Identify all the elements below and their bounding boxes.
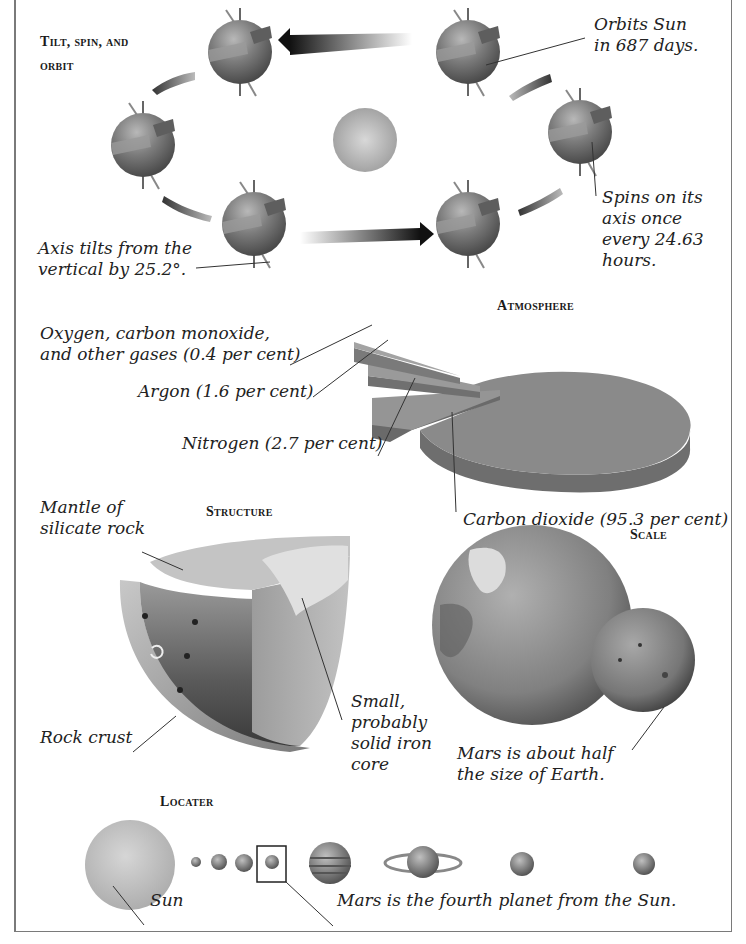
sun-icon [333, 108, 397, 172]
venus-icon [211, 854, 227, 870]
earth-icon [235, 854, 253, 872]
earth-icon [432, 525, 632, 725]
mars-icon [265, 855, 279, 869]
planet-icon [436, 8, 500, 96]
spin-label-line: hours. [602, 250, 704, 271]
mantle-label-line: Mantle of [40, 497, 145, 518]
tilt-label-line: Axis tilts from the [38, 238, 192, 259]
planet-icon [548, 88, 612, 176]
neptune-icon [633, 853, 655, 875]
planet-icon [111, 101, 175, 189]
scale-label-line: the size of Earth. [457, 764, 614, 785]
atmosphere-pie-chart [0, 280, 746, 500]
tilt-label-line: vertical by 25.2°. [38, 259, 192, 280]
scale-label-line: Mars is about half [457, 743, 614, 764]
oxygen-label-line: and other gases (0.4 per cent) [40, 344, 300, 365]
orbit-label-line: Orbits Sun [594, 14, 698, 35]
orbit-label-line: in 687 days. [594, 35, 698, 56]
saturn-icon [385, 846, 461, 878]
planet-icon [222, 180, 286, 268]
locater-mars-label: Mars is the fourth planet from the Sun. [337, 890, 676, 911]
structure-heading: Structure [206, 504, 273, 520]
scale-comparison [0, 520, 746, 780]
oxygen-label-line: Oxygen, carbon monoxide, [40, 323, 300, 344]
tilt-label: Axis tilts from the vertical by 25.2°. [38, 238, 192, 280]
uranus-icon [510, 852, 534, 876]
spin-label-line: every 24.63 [602, 229, 704, 250]
spin-label-line: axis once [602, 208, 704, 229]
oxygen-label: Oxygen, carbon monoxide, and other gases… [40, 323, 300, 365]
mars-icon [591, 608, 695, 712]
nitrogen-label: Nitrogen (2.7 per cent) [182, 433, 382, 454]
planet-icon [436, 180, 500, 268]
spin-label-line: Spins on its [602, 187, 704, 208]
orbit-label: Orbits Sun in 687 days. [594, 14, 698, 56]
jupiter-icon [309, 842, 351, 884]
scale-label: Mars is about half the size of Earth. [457, 743, 614, 785]
mercury-icon [191, 857, 201, 867]
spin-label: Spins on its axis once every 24.63 hours… [602, 187, 704, 271]
argon-label: Argon (1.6 per cent) [138, 381, 313, 402]
planet-icon [208, 8, 272, 96]
locater-sun-label: Sun [150, 890, 184, 911]
